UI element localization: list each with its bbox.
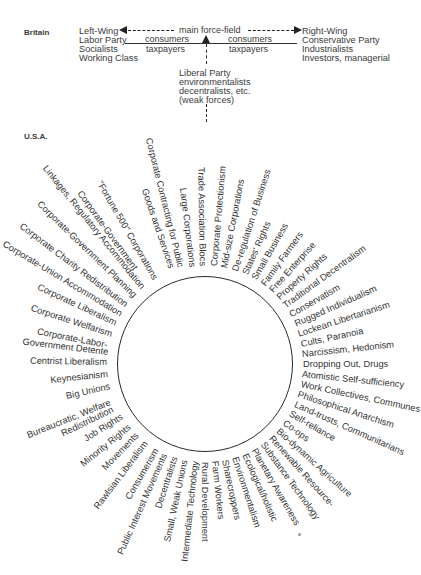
right-taxpayers: taxpayers bbox=[229, 44, 268, 54]
usa-label: U.S.A. bbox=[24, 132, 48, 141]
left-wing-block: Left-Wing Labor Party Socialists Working… bbox=[79, 27, 138, 63]
registered-mark-icon bbox=[298, 533, 301, 536]
left-consumers: consumers bbox=[145, 34, 189, 44]
spectrum-label: Centrist Liberalism bbox=[30, 356, 107, 367]
liberal-line: (weak forces) bbox=[179, 96, 251, 105]
arrow-up-icon bbox=[202, 35, 210, 43]
right-wing-block: Right-Wing Conservative Party Industrial… bbox=[302, 27, 390, 63]
spectrum-label: Dropping Out, Drugs bbox=[303, 359, 388, 369]
spectrum-label: Trade Association Blocs bbox=[196, 167, 208, 266]
force-field-dash-left bbox=[128, 30, 174, 31]
arrow-right-icon bbox=[294, 26, 302, 34]
right-wing-line: Investors, managerial bbox=[302, 54, 390, 63]
spectrum-label: Rural Development bbox=[200, 462, 210, 542]
left-taxpayers: taxpayers bbox=[146, 44, 185, 54]
political-spectrum-circle bbox=[117, 276, 293, 452]
left-wing-line: Working Class bbox=[79, 54, 138, 63]
weak-force-dash-bottom bbox=[206, 104, 207, 122]
liberal-block: Liberal Party environmentalists decentra… bbox=[179, 69, 251, 105]
weak-force-dash-top bbox=[206, 44, 207, 64]
arrow-left-icon bbox=[119, 26, 127, 34]
force-field-dash-right bbox=[248, 30, 294, 31]
britain-label: Britain bbox=[24, 28, 49, 37]
right-consumers: consumers bbox=[228, 34, 272, 44]
